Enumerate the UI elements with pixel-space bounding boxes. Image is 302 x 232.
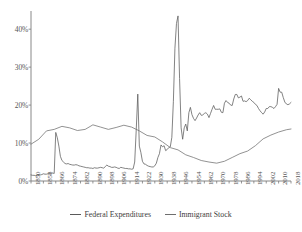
x-axis-tick-label: 1978 bbox=[232, 172, 240, 185]
x-axis-tick-label: 1938 bbox=[170, 172, 178, 185]
legend-item-1[interactable]: Federal Expenditures bbox=[70, 210, 150, 219]
x-axis-tick-label: 1858 bbox=[46, 172, 54, 185]
x-axis-tick-label: 2010 bbox=[281, 172, 289, 185]
x-axis-tick-label: 2002 bbox=[269, 172, 277, 185]
legend-line-swatch bbox=[165, 214, 176, 215]
chart-axes bbox=[29, 11, 292, 184]
legend-label: Immigrant Stock bbox=[179, 210, 232, 219]
y-axis-tick-label: 0% bbox=[2, 177, 28, 186]
x-axis-tick-label: 1962 bbox=[207, 172, 215, 185]
x-axis-tick-label: 1890 bbox=[96, 172, 104, 185]
y-axis-tick-label: 20% bbox=[2, 101, 28, 110]
x-axis-tick-label: 1994 bbox=[256, 172, 264, 185]
legend-item-2[interactable]: Immigrant Stock bbox=[165, 210, 232, 219]
chart-series-group bbox=[31, 16, 291, 176]
chart-plot-area bbox=[0, 0, 302, 232]
series-line-1 bbox=[31, 16, 291, 176]
x-axis-tick-label: 1866 bbox=[58, 172, 66, 185]
x-axis-tick-label: 1882 bbox=[83, 172, 91, 185]
legend-line-swatch bbox=[70, 214, 81, 215]
y-axis-tick-label: 40% bbox=[2, 25, 28, 34]
x-axis-tick-label: 1970 bbox=[219, 172, 227, 185]
x-axis-tick-label: 2018 bbox=[294, 172, 302, 185]
y-axis-tick-label: 10% bbox=[2, 139, 28, 148]
x-axis-tick-label: 1930 bbox=[157, 172, 165, 185]
x-axis-tick-label: 1922 bbox=[145, 172, 153, 185]
x-axis-tick-label: 1946 bbox=[182, 172, 190, 185]
series-line-2 bbox=[31, 125, 291, 163]
x-axis-tick-label: 1850 bbox=[34, 172, 42, 185]
x-axis-tick-label: 1986 bbox=[244, 172, 252, 185]
x-axis-tick-label: 1914 bbox=[133, 172, 141, 185]
x-axis-tick-label: 1898 bbox=[108, 172, 116, 185]
x-axis-tick-label: 1906 bbox=[120, 172, 128, 185]
y-axis-tick-label: 30% bbox=[2, 63, 28, 72]
chart-legend: Federal ExpendituresImmigrant Stock bbox=[0, 210, 302, 219]
x-axis-tick-label: 1874 bbox=[71, 172, 79, 185]
chart-container: 0%10%20%30%40% 1850185818661874188218901… bbox=[0, 0, 302, 232]
legend-label: Federal Expenditures bbox=[84, 210, 150, 219]
x-axis-tick-label: 1954 bbox=[195, 172, 203, 185]
